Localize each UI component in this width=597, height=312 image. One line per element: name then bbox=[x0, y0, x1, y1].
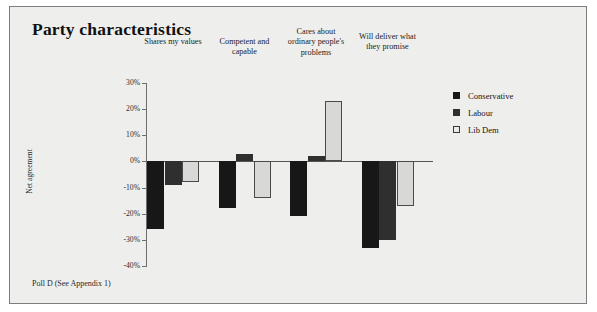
legend-item-labour[interactable]: Labour bbox=[453, 104, 513, 121]
bar-conservative bbox=[290, 161, 307, 216]
legend-label: Conservative bbox=[468, 91, 513, 101]
legend-label: Lib Dem bbox=[468, 125, 499, 135]
y-tick-label: -30% bbox=[106, 236, 140, 244]
y-tick-mark bbox=[142, 240, 147, 241]
source-note: Poll D (See Appendix 1) bbox=[32, 279, 111, 288]
bar-labour bbox=[379, 161, 396, 239]
bar-labour bbox=[236, 154, 253, 162]
chart-card: Party characteristics 30%20%10%0%-10%-20… bbox=[9, 6, 587, 304]
legend-swatch-icon bbox=[453, 92, 460, 99]
legend-swatch-icon bbox=[453, 126, 460, 133]
y-tick-label: -20% bbox=[106, 210, 140, 218]
bar-conservative bbox=[219, 161, 236, 208]
y-tick-label: 10% bbox=[106, 131, 140, 139]
y-axis-tick-labels: 30%20%10%0%-10%-20%-30%-40% bbox=[102, 7, 140, 305]
y-tick-label: 30% bbox=[106, 79, 140, 87]
legend-swatch-icon bbox=[453, 109, 460, 116]
y-tick-mark bbox=[142, 83, 147, 84]
y-tick-label: 20% bbox=[106, 105, 140, 113]
bar-libdem bbox=[254, 161, 271, 198]
bar-conservative bbox=[362, 161, 379, 247]
bar-libdem bbox=[182, 161, 199, 182]
category-label: Competent and capable bbox=[212, 37, 278, 58]
y-tick-mark bbox=[142, 266, 147, 267]
y-axis-title: Net agreement bbox=[25, 132, 34, 212]
bar-conservative bbox=[147, 161, 164, 229]
bar-labour bbox=[308, 156, 325, 161]
y-tick-mark bbox=[142, 109, 147, 110]
bar-libdem bbox=[397, 161, 414, 205]
bar-libdem bbox=[325, 101, 342, 161]
y-tick-label: -40% bbox=[106, 262, 140, 270]
legend-item-conservative[interactable]: Conservative bbox=[453, 87, 513, 104]
category-label: Shares my values bbox=[140, 37, 206, 47]
category-label: Will deliver what they promise bbox=[355, 32, 421, 53]
y-tick-label: 0% bbox=[106, 157, 140, 165]
chart-plot-area: 30%20%10%0%-10%-20%-30%-40% Net agreemen… bbox=[10, 7, 588, 305]
y-tick-label: -10% bbox=[106, 184, 140, 192]
legend-item-libdem[interactable]: Lib Dem bbox=[453, 121, 513, 138]
chart-legend: ConservativeLabourLib Dem bbox=[453, 87, 513, 138]
legend-label: Labour bbox=[468, 108, 493, 118]
bar-labour bbox=[165, 161, 182, 185]
category-label: Cares about ordinary people's problems bbox=[283, 27, 349, 58]
y-tick-mark bbox=[142, 135, 147, 136]
